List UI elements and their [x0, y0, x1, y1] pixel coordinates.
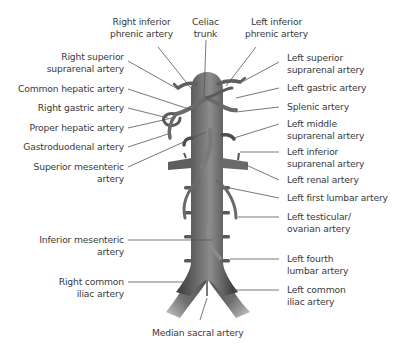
- label-line: Left inferior: [287, 146, 364, 158]
- label-line: Median sacral artery: [152, 327, 244, 339]
- label-right-common-iliac-artery: Right common iliac artery: [59, 276, 124, 299]
- label-common-hepatic-artery: Common hepatic artery: [18, 83, 124, 95]
- label-line: Right inferior: [110, 16, 173, 28]
- label-line: Celiac: [192, 16, 219, 28]
- label-left-common-iliac-artery: Left common iliac artery: [287, 284, 346, 307]
- label-left-inferior-phrenic-artery: Left inferior phrenic artery: [245, 16, 308, 39]
- label-line: artery: [39, 246, 124, 258]
- label-superior-mesenteric-artery: Superior mesenteric artery: [34, 161, 124, 184]
- label-line: Left middle: [287, 118, 364, 130]
- label-line: Left first lumbar artery: [287, 192, 388, 204]
- label-line: ovarian artery: [287, 223, 351, 235]
- label-line: phrenic artery: [110, 28, 173, 40]
- label-gastroduodenal-artery: Gastroduodenal artery: [23, 141, 124, 153]
- label-line: Right gastric artery: [38, 102, 124, 114]
- label-line: suprarenal artery: [47, 63, 124, 75]
- label-right-gastric-artery: Right gastric artery: [38, 102, 124, 114]
- label-line: Superior mesenteric: [34, 161, 124, 173]
- label-line: suprarenal artery: [287, 158, 364, 170]
- label-left-gastric-artery: Left gastric artery: [287, 82, 366, 94]
- label-line: Left testicular/: [287, 211, 351, 223]
- label-left-inferior-suprarenal-artery: Left inferior suprarenal artery: [287, 146, 364, 169]
- label-line: suprarenal artery: [287, 64, 364, 76]
- label-line: Left fourth: [287, 253, 348, 265]
- label-line: Gastroduodenal artery: [23, 141, 124, 153]
- label-line: iliac artery: [59, 288, 124, 300]
- label-right-inferior-phrenic-artery: Right inferior phrenic artery: [110, 16, 173, 39]
- label-line: Left inferior: [245, 16, 308, 28]
- label-left-superior-suprarenal-artery: Left superior suprarenal artery: [287, 52, 364, 75]
- label-line: Right superior: [47, 51, 124, 63]
- label-right-superior-suprarenal-artery: Right superior suprarenal artery: [47, 51, 124, 74]
- label-line: Right common: [59, 276, 124, 288]
- label-line: Proper hepatic artery: [29, 122, 124, 134]
- label-line: Splenic artery: [287, 101, 349, 113]
- label-celiac-trunk: Celiac trunk: [192, 16, 219, 39]
- label-left-renal-artery: Left renal artery: [287, 174, 359, 186]
- label-proper-hepatic-artery: Proper hepatic artery: [29, 122, 124, 134]
- label-left-middle-suprarenal-artery: Left middle suprarenal artery: [287, 118, 364, 141]
- label-line: Inferior mesenteric: [39, 234, 124, 246]
- label-left-fourth-lumbar-artery: Left fourth lumbar artery: [287, 253, 348, 276]
- label-line: iliac artery: [287, 296, 346, 308]
- label-line: phrenic artery: [245, 28, 308, 40]
- label-line: trunk: [192, 28, 219, 40]
- label-line: artery: [34, 173, 124, 185]
- label-line: lumbar artery: [287, 265, 348, 277]
- label-splenic-artery: Splenic artery: [287, 101, 349, 113]
- label-line: suprarenal artery: [287, 130, 364, 142]
- label-median-sacral-artery: Median sacral artery: [152, 327, 244, 339]
- label-line: Left superior: [287, 52, 364, 64]
- label-line: Left gastric artery: [287, 82, 366, 94]
- label-inferior-mesenteric-artery: Inferior mesenteric artery: [39, 234, 124, 257]
- label-left-testicular-ovarian-artery: Left testicular/ ovarian artery: [287, 211, 351, 234]
- label-line: Common hepatic artery: [18, 83, 124, 95]
- label-line: Left common: [287, 284, 346, 296]
- label-left-first-lumbar-artery: Left first lumbar artery: [287, 192, 388, 204]
- label-line: Left renal artery: [287, 174, 359, 186]
